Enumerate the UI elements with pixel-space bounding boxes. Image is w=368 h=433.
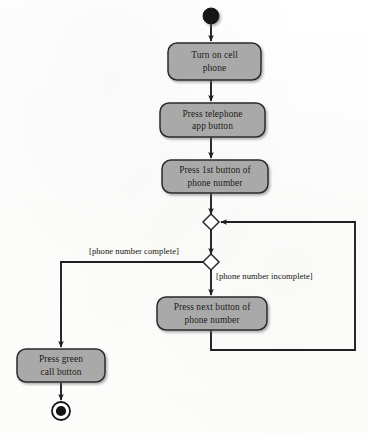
action-node-press-1st-button [162, 160, 268, 193]
edge-act4-to-merge [211, 222, 355, 350]
diagram-graphics [0, 0, 368, 433]
merge-node [203, 214, 219, 230]
guard-label-phone-number-complete: [phone number complete] [89, 246, 179, 256]
action-node-press-telephone-app-button [160, 103, 265, 137]
action-node-group [17, 43, 268, 382]
final-node [52, 402, 70, 420]
action-node-press-green-call-button [17, 349, 105, 382]
initial-node [203, 8, 219, 24]
decision-node [203, 254, 219, 270]
action-node-press-next-button [157, 297, 267, 330]
action-node-turn-on-cell-phone [168, 43, 261, 80]
guard-label-phone-number-incomplete: [phone number incomplete] [216, 271, 313, 281]
activity-diagram-canvas: Turn on cell phone Press telephone app b… [0, 0, 368, 433]
